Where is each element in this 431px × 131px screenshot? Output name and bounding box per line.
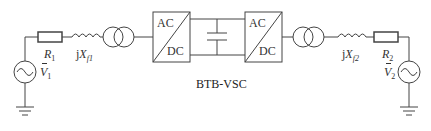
left-ground-icon <box>16 107 34 115</box>
right-ground-icon <box>400 107 418 115</box>
dc-link-capacitor-icon <box>207 19 227 55</box>
left-resistor-icon <box>38 32 62 42</box>
left-reactance-label: jXf1 <box>76 48 93 63</box>
diagram-caption: BTB-VSC <box>196 77 247 92</box>
right-resistor-icon <box>374 32 398 42</box>
left-voltage-label: V1 <box>40 66 51 81</box>
right-converter-ac-label: AC <box>249 17 266 29</box>
left-transformer-icon <box>103 27 134 47</box>
left-ac-source-icon <box>14 37 36 107</box>
left-converter-ac-label: AC <box>157 17 174 29</box>
right-transformer-icon <box>293 27 324 47</box>
left-resistor-label: R1 <box>44 48 55 63</box>
right-inductor-icon <box>338 34 366 37</box>
circuit-wiring <box>0 0 431 131</box>
right-converter-dc-label: DC <box>259 45 276 57</box>
right-voltage-label: V2 <box>384 66 395 81</box>
btb-vsc-circuit-diagram: R1 jXf1 V1 AC DC AC DC jXf2 R2 V2 BTB-VS… <box>0 0 431 131</box>
right-reactance-label: jXf2 <box>342 48 359 63</box>
left-converter-dc-label: DC <box>167 45 184 57</box>
right-resistor-label: R2 <box>382 48 393 63</box>
left-inductor-icon <box>72 34 100 37</box>
right-ac-source-icon <box>398 37 420 107</box>
